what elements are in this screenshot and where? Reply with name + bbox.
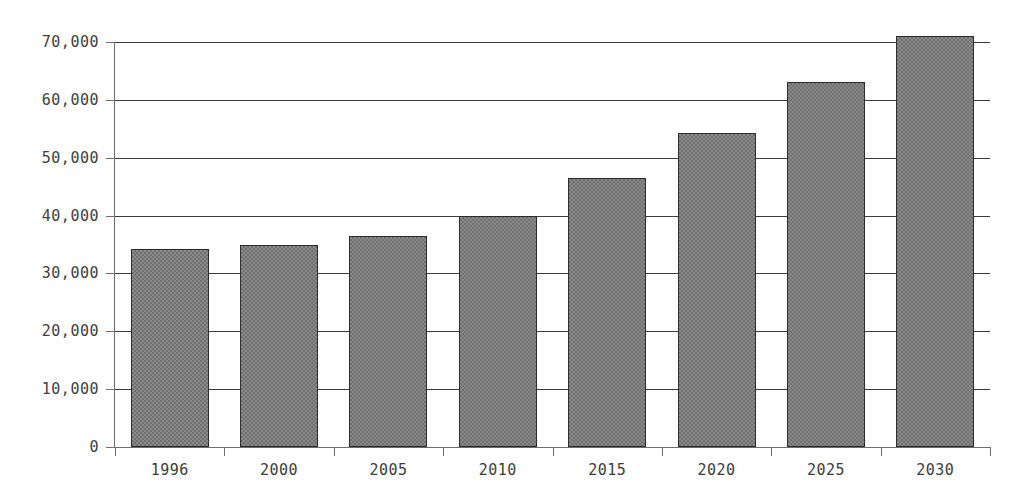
plot-area bbox=[115, 42, 990, 447]
y-tick-mark-60000 bbox=[106, 100, 115, 101]
x-tick-label: 1996 bbox=[151, 461, 189, 479]
y-tick-label: 0 bbox=[0, 438, 99, 456]
y-tick-mark-30000 bbox=[106, 273, 115, 274]
y-tick-label: 30,000 bbox=[0, 264, 99, 282]
x-tick-mark bbox=[224, 447, 225, 456]
y-tick-label: 70,000 bbox=[0, 33, 99, 51]
x-tick-mark bbox=[662, 447, 663, 456]
x-tick-mark bbox=[334, 447, 335, 456]
bar-2020 bbox=[678, 133, 756, 447]
x-tick-mark bbox=[990, 447, 991, 456]
y-tick-mark-70000 bbox=[106, 42, 115, 43]
y-tick-mark-10000 bbox=[106, 389, 115, 390]
y-tick-label: 50,000 bbox=[0, 149, 99, 167]
y-tick-mark-0 bbox=[106, 447, 115, 448]
y-tick-label: 40,000 bbox=[0, 207, 99, 225]
x-tick-mark bbox=[443, 447, 444, 456]
gridline-70000 bbox=[115, 42, 990, 43]
y-tick-label: 10,000 bbox=[0, 380, 99, 398]
y-tick-label: 20,000 bbox=[0, 322, 99, 340]
y-tick-mark-20000 bbox=[106, 331, 115, 332]
x-tick-mark bbox=[771, 447, 772, 456]
bar-2025 bbox=[787, 82, 865, 447]
bar-2005 bbox=[349, 236, 427, 447]
x-tick-label: 2030 bbox=[916, 461, 954, 479]
x-tick-label: 2005 bbox=[369, 461, 407, 479]
y-tick-mark-40000 bbox=[106, 216, 115, 217]
bar-1996 bbox=[131, 249, 209, 447]
x-tick-label: 2010 bbox=[479, 461, 517, 479]
x-tick-label: 2015 bbox=[588, 461, 626, 479]
bar-2000 bbox=[240, 245, 318, 447]
x-tick-mark bbox=[881, 447, 882, 456]
bar-2010 bbox=[459, 216, 537, 447]
bar-2015 bbox=[568, 178, 646, 447]
y-tick-label: 60,000 bbox=[0, 91, 99, 109]
bar-chart-figure: 010,00020,00030,00040,00050,00060,00070,… bbox=[0, 0, 1018, 498]
x-tick-label: 2000 bbox=[260, 461, 298, 479]
x-tick-label: 2020 bbox=[698, 461, 736, 479]
x-tick-label: 2025 bbox=[807, 461, 845, 479]
y-tick-mark-50000 bbox=[106, 158, 115, 159]
x-tick-mark bbox=[115, 447, 116, 456]
bar-2030 bbox=[896, 36, 974, 447]
x-tick-mark bbox=[553, 447, 554, 456]
